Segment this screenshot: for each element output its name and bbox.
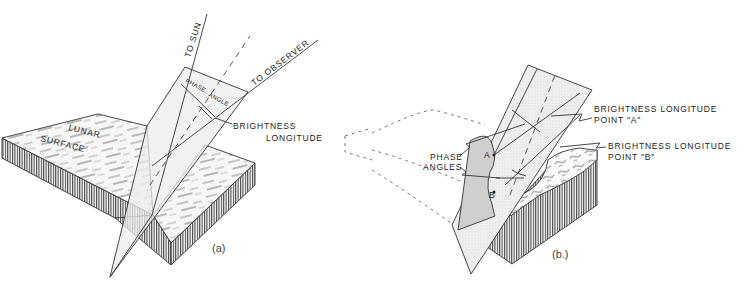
label-angles-b: ANGLES xyxy=(423,162,462,172)
label-brightness-b-2: POINT "B" xyxy=(608,152,655,162)
caption-b: (b.) xyxy=(552,248,569,260)
point-a-marker xyxy=(493,154,496,157)
label-point-a: A xyxy=(484,150,490,160)
lunar-photometry-diagram: TO SUN TO OBSERVER PHASE ANGLE BRIGHTNES… xyxy=(0,0,744,289)
panel-a: TO SUN TO OBSERVER PHASE ANGLE BRIGHTNES… xyxy=(2,14,323,277)
dotted-outline-left xyxy=(345,128,372,160)
label-brightness-a-1: BRIGHTNESS LONGITUDE xyxy=(594,104,717,114)
label-point-b: B xyxy=(489,190,495,200)
panel-b: A B PHASE ANGLES BRIGHTNESS LONGITUDE PO… xyxy=(345,65,731,274)
caption-a: (a) xyxy=(212,242,225,254)
label-brightness: BRIGHTNESS xyxy=(233,121,296,131)
label-phase-b: PHASE xyxy=(430,152,463,162)
label-to-observer: TO OBSERVER xyxy=(249,38,311,88)
label-brightness-b-1: BRIGHTNESS LONGITUDE xyxy=(608,141,731,151)
label-longitude: LONGITUDE xyxy=(266,133,323,143)
brightness-b-leader xyxy=(560,143,606,148)
label-brightness-a-2: POINT "A" xyxy=(594,115,641,125)
